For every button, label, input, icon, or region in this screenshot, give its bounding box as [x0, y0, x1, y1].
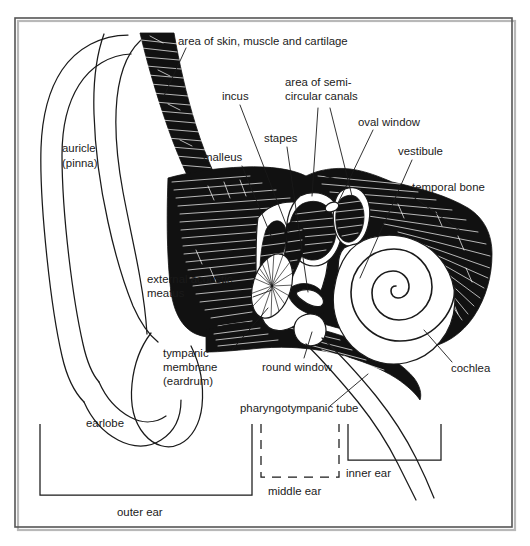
- label-semicircular-canals-line1: area of semi-: [285, 76, 352, 88]
- label-round-window: round window: [262, 361, 333, 373]
- label-vestibule: vestibule: [398, 145, 443, 157]
- label-auricle-line2: (pinna): [62, 157, 98, 169]
- label-meatus-line2: meatus: [147, 287, 185, 299]
- label-outer-ear: outer ear: [117, 506, 163, 518]
- ear-diagram-canvas: area of skin, muscle and cartilage incus…: [0, 0, 530, 546]
- label-inner-ear: inner ear: [346, 467, 391, 479]
- round-window: [294, 314, 326, 346]
- ear-anatomy-figure: area of skin, muscle and cartilage incus…: [0, 0, 530, 546]
- label-incus: incus: [222, 90, 249, 102]
- label-malleus: malleus: [203, 151, 243, 163]
- label-cochlea: cochlea: [451, 362, 491, 374]
- label-semicircular-canals-line2: circular canals: [285, 90, 358, 102]
- label-stapes: stapes: [264, 132, 298, 144]
- inner-ear-bracket: [348, 424, 441, 460]
- label-pharyngotympanic-tube: pharyngotympanic tube: [240, 402, 358, 414]
- label-earlobe: earlobe: [86, 417, 124, 429]
- label-middle-ear: middle ear: [268, 485, 321, 497]
- label-oval-window: oval window: [358, 116, 421, 128]
- label-temporal-bone: temporal bone: [412, 181, 485, 193]
- outer-ear-bracket: [40, 424, 252, 495]
- label-tympanic-line3: (eardrum): [163, 375, 213, 387]
- label-meatus-line1: external acoustic: [147, 273, 233, 285]
- label-area-of-skin: area of skin, muscle and cartilage: [178, 35, 348, 47]
- label-tympanic-line2: membrane: [163, 361, 217, 373]
- label-tympanic-line1: tympanic: [163, 347, 209, 359]
- middle-ear-bracket: [261, 424, 339, 477]
- label-auricle-line1: auricle: [62, 142, 96, 154]
